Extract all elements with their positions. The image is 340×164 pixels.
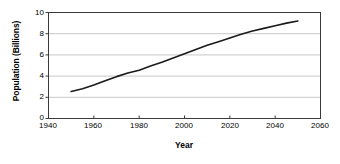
- grid-lines: [49, 34, 321, 98]
- population-line-chart: Population (Billions) 10 8 6 4 2 0 1940 …: [0, 0, 340, 164]
- plot-frame: [49, 13, 321, 119]
- plot-area: [0, 0, 340, 164]
- data-line-world-population: [71, 21, 298, 91]
